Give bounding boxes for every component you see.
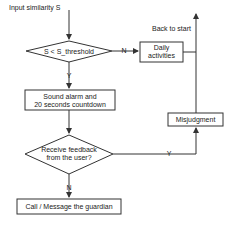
call-text: Call / Message the guardian <box>25 203 112 211</box>
back-label: Back to start <box>152 25 191 32</box>
edge-label-y2: Y <box>167 150 172 157</box>
flowchart: Input similarity S Back to start S < S_t… <box>0 0 235 232</box>
decision1-text: S < S_threshold <box>44 48 94 56</box>
decision2-text2: from the user? <box>46 154 91 161</box>
edge-label-n2: N <box>66 184 71 191</box>
feedback-yes-arrow <box>113 128 196 154</box>
alarm-text1: Sound alarm and <box>43 93 96 100</box>
edge-label-y1: Y <box>67 72 72 79</box>
edge-label-n1: N <box>121 47 126 54</box>
decision2-text1: Receive feedback <box>41 146 97 153</box>
misjudgment-text: Misjudgment <box>176 116 216 124</box>
alarm-text2: 20 seconds countdown <box>34 101 106 108</box>
input-label: Input similarity S <box>9 4 61 12</box>
daily-text1: Daily <box>154 44 170 52</box>
daily-text2: activities <box>148 52 175 59</box>
